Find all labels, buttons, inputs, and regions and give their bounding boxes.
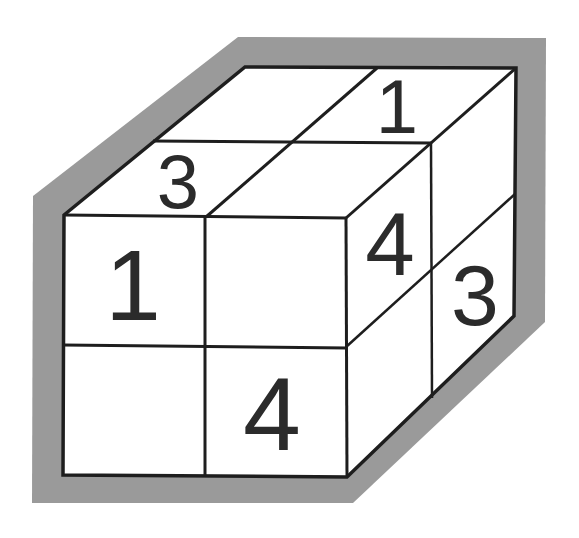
digit-right-top-front: 4 xyxy=(365,194,415,294)
digit-front-bottom-right: 4 xyxy=(243,356,301,472)
digit-right-bottom-back: 3 xyxy=(451,247,499,343)
cube-puzzle-diagram: 1 3 1 4 4 3 xyxy=(0,0,579,538)
digit-top-front-left: 3 xyxy=(157,139,199,224)
digit-top-back-right: 1 xyxy=(376,64,418,149)
digit-front-top-left: 1 xyxy=(105,229,161,341)
